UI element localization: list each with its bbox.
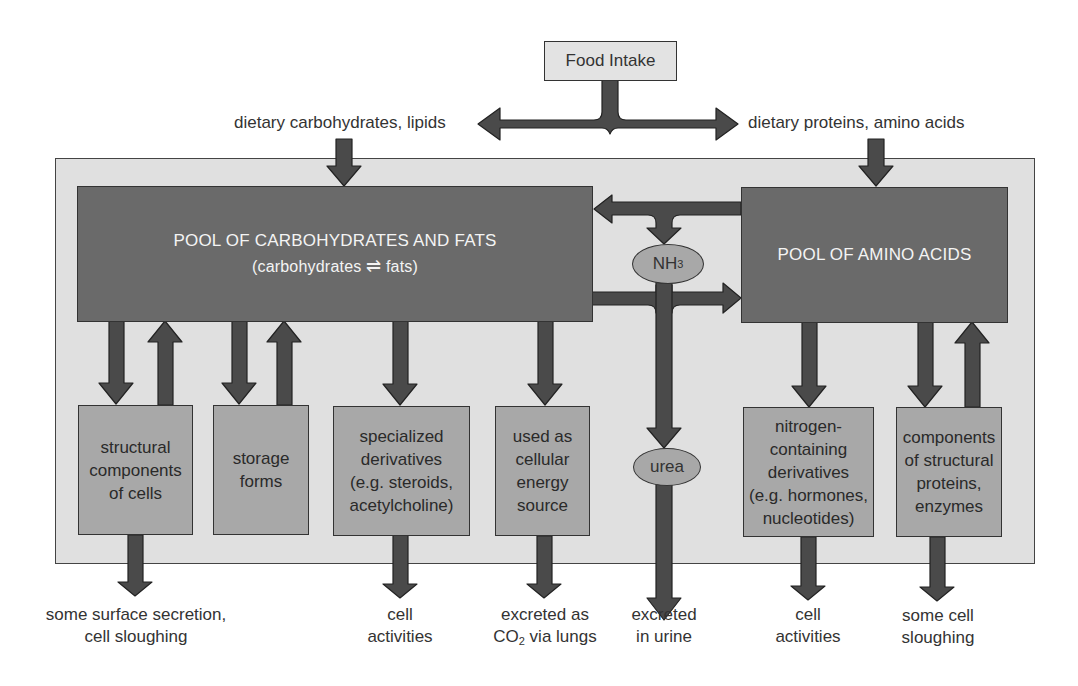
dietary-carbs-label: dietary carbohydrates, lipids	[234, 112, 446, 134]
output-urine-label: excreted in urine	[624, 604, 704, 648]
amino-acid-pool-title: POOL OF AMINO ACIDS	[778, 245, 972, 265]
output-cell-activities-1-label: cell activities	[360, 604, 440, 648]
carb-to-energy-arrow	[528, 321, 562, 405]
dietary-proteins-label: dietary proteins, amino acids	[748, 112, 964, 134]
flow-arrows	[0, 0, 1078, 686]
carb-fat-pool: POOL OF CARBOHYDRATES AND FATS (carbohyd…	[77, 186, 593, 322]
equilibrium-icon: ⇌	[366, 256, 381, 276]
amino-to-carb-arrow	[594, 195, 741, 244]
specialized-derivatives-box: specialized derivatives (e.g. steroids, …	[333, 406, 470, 536]
proteins-to-amino-arrow	[955, 322, 989, 407]
structural-components-box: structural components of cells	[78, 405, 193, 535]
storage-to-carb-arrow	[267, 321, 301, 405]
carb-to-specialized-arrow	[383, 321, 417, 405]
output-co2-label: excreted as CO2 via lungs	[490, 604, 600, 652]
structural-output-arrow	[118, 535, 152, 596]
urea-to-urine-arrow	[647, 484, 681, 620]
food-intake-box: Food Intake	[544, 41, 677, 81]
amino-input-arrow	[859, 139, 893, 186]
carb-to-structural-arrow	[99, 321, 133, 404]
energy-output-arrow	[527, 536, 561, 598]
carb-to-storage-arrow	[222, 321, 256, 404]
output-secretion-label: some surface secretion, cell sloughing	[26, 604, 246, 648]
carb-fat-pool-subtitle: (carbohydrates ⇌ fats)	[252, 255, 418, 277]
specialized-output-arrow	[383, 535, 417, 598]
amino-to-proteins-arrow	[908, 322, 942, 407]
food-intake-label: Food Intake	[566, 51, 656, 71]
structural-proteins-box: components of structural proteins, enzym…	[896, 407, 1002, 537]
nitrogen-output-arrow	[791, 537, 825, 600]
food-split-arrow	[478, 80, 738, 140]
carb-fat-pool-title: POOL OF CARBOHYDRATES AND FATS	[173, 231, 496, 251]
storage-forms-box: storage forms	[213, 405, 309, 535]
amino-acid-pool: POOL OF AMINO ACIDS	[741, 187, 1008, 323]
output-cell-activities-2-label: cell activities	[768, 604, 848, 648]
energy-source-box: used as cellular energy source	[495, 406, 590, 536]
output-cell-sloughing-label: some cell sloughing	[896, 605, 980, 649]
proteins-output-arrow	[920, 537, 954, 601]
structural-to-carb-arrow	[148, 321, 182, 405]
urea-node: urea	[633, 448, 701, 486]
amino-to-nitrogen-arrow	[792, 322, 826, 407]
nitrogen-derivatives-box: nitrogen- containing derivatives (e.g. h…	[743, 407, 874, 537]
carb-input-arrow	[327, 139, 361, 186]
nh3-node: NH3	[632, 244, 704, 284]
